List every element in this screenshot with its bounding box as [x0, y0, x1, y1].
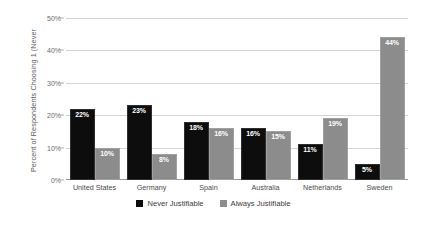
x-tick-label: United States: [66, 183, 123, 192]
legend-label: Never Justifiable: [147, 199, 203, 208]
bar[interactable]: 5%: [355, 164, 380, 180]
y-tick-label: 30%: [27, 79, 61, 86]
bar-value-label: 15%: [267, 133, 290, 140]
legend-swatch-icon: [136, 200, 143, 207]
y-tick-label: 0%: [27, 177, 61, 184]
bar-value-label: 16%: [210, 130, 233, 137]
legend-label: Always Justifiable: [231, 199, 291, 208]
y-tick-label: 20%: [27, 112, 61, 119]
x-tick-label: Netherlands: [294, 183, 351, 192]
bar[interactable]: 16%: [209, 128, 234, 180]
y-tick-mark: [60, 147, 64, 148]
x-axis-labels: United StatesGermanySpainAustraliaNether…: [66, 183, 408, 192]
bar-value-label: 16%: [242, 130, 265, 137]
legend-item[interactable]: Always Justifiable: [220, 199, 291, 208]
bar-group: 23%8%: [123, 18, 180, 180]
bar[interactable]: 15%: [266, 131, 291, 180]
y-tick-label: 50%: [27, 15, 61, 22]
y-tick-mark: [60, 82, 64, 83]
bar[interactable]: 16%: [241, 128, 266, 180]
chart-legend: Never JustifiableAlways Justifiable: [0, 199, 427, 208]
bar[interactable]: 22%: [70, 109, 95, 180]
bar-value-label: 22%: [71, 111, 94, 118]
bar-value-label: 5%: [356, 166, 379, 173]
x-tick-label: Sweden: [351, 183, 408, 192]
bar-value-label: 44%: [381, 39, 404, 46]
bar-group: 16%15%: [237, 18, 294, 180]
x-tick-label: Germany: [123, 183, 180, 192]
bar-chart: Percent of Respondents Choosing 1 (Never…: [0, 0, 427, 231]
bar[interactable]: 11%: [298, 144, 323, 180]
bar-value-label: 18%: [185, 124, 208, 131]
bar-value-label: 19%: [324, 120, 347, 127]
legend-item[interactable]: Never Justifiable: [136, 199, 203, 208]
bar-group: 5%44%: [351, 18, 408, 180]
bar-group: 22%10%: [66, 18, 123, 180]
bar-group: 11%19%: [294, 18, 351, 180]
y-tick-mark: [60, 180, 64, 181]
bar-value-label: 8%: [153, 156, 176, 163]
bar-value-label: 23%: [128, 107, 151, 114]
y-tick-label: 40%: [27, 47, 61, 54]
bar[interactable]: 44%: [380, 37, 405, 180]
y-axis-title: Percent of Respondents Choosing 1 (Never: [29, 6, 38, 196]
y-tick-mark: [60, 115, 64, 116]
bar-value-label: 11%: [299, 146, 322, 153]
bar[interactable]: 19%: [323, 118, 348, 180]
y-tick-label: 10%: [27, 144, 61, 151]
bar[interactable]: 18%: [184, 122, 209, 180]
x-tick-label: Australia: [237, 183, 294, 192]
y-tick-mark: [60, 18, 64, 19]
bar-groups: 22%10%23%8%18%16%16%15%11%19%5%44%: [66, 18, 408, 180]
bar-value-label: 10%: [96, 150, 119, 157]
bar[interactable]: 23%: [127, 105, 152, 180]
x-tick-label: Spain: [180, 183, 237, 192]
bar[interactable]: 10%: [95, 148, 120, 180]
legend-swatch-icon: [220, 200, 227, 207]
y-tick-mark: [60, 50, 64, 51]
bar[interactable]: 8%: [152, 154, 177, 180]
bar-group: 18%16%: [180, 18, 237, 180]
